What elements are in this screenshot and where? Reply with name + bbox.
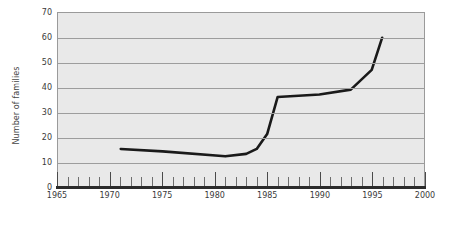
- x-axis-ticks: 19651970197519801985199019952000: [0, 0, 452, 231]
- x-axis-minor-tick: [330, 177, 331, 186]
- x-axis-minor-tick: [309, 177, 310, 186]
- x-axis-tick-label: 2000: [415, 191, 435, 200]
- x-axis-minor-tick: [341, 177, 342, 186]
- x-axis-minor-tick: [194, 177, 195, 186]
- x-axis-minor-tick: [183, 177, 184, 186]
- x-axis-major-tick: [320, 172, 321, 186]
- x-axis-tick-label: 1985: [257, 191, 277, 200]
- x-axis-tick-label: 1990: [310, 191, 330, 200]
- x-axis-minor-tick: [246, 177, 247, 186]
- x-axis-major-tick: [372, 172, 373, 186]
- x-axis-minor-tick: [131, 177, 132, 186]
- x-axis-minor-tick: [351, 177, 352, 186]
- x-axis-minor-tick: [173, 177, 174, 186]
- x-axis-minor-tick: [414, 177, 415, 186]
- x-axis-tick-label: 1965: [47, 191, 67, 200]
- x-axis-major-tick: [267, 172, 268, 186]
- x-axis-minor-tick: [393, 177, 394, 186]
- x-axis-minor-tick: [89, 177, 90, 186]
- x-axis-minor-tick: [236, 177, 237, 186]
- x-axis-minor-tick: [278, 177, 279, 186]
- x-axis-minor-tick: [141, 177, 142, 186]
- x-axis-major-tick: [162, 172, 163, 186]
- x-axis-minor-tick: [404, 177, 405, 186]
- x-axis-major-tick: [425, 172, 426, 186]
- x-axis-tick-label: 1975: [152, 191, 172, 200]
- x-axis-minor-tick: [120, 177, 121, 186]
- x-axis-minor-tick: [204, 177, 205, 186]
- x-axis-tick-label: 1980: [205, 191, 225, 200]
- x-axis-minor-tick: [68, 177, 69, 186]
- x-axis-minor-tick: [257, 177, 258, 186]
- x-axis-minor-tick: [225, 177, 226, 186]
- x-axis-major-tick: [215, 172, 216, 186]
- x-axis-minor-tick: [362, 177, 363, 186]
- x-axis-minor-tick: [78, 177, 79, 186]
- x-axis-minor-tick: [152, 177, 153, 186]
- chart-figure: Number of families 010203040506070 19651…: [0, 0, 452, 231]
- x-axis-major-tick: [57, 172, 58, 186]
- x-axis-minor-tick: [383, 177, 384, 186]
- x-axis-tick-label: 1970: [99, 191, 119, 200]
- x-axis-minor-tick: [288, 177, 289, 186]
- x-axis-tick-label: 1995: [362, 191, 382, 200]
- x-axis-minor-tick: [99, 177, 100, 186]
- x-axis-major-tick: [110, 172, 111, 186]
- x-axis-minor-tick: [299, 177, 300, 186]
